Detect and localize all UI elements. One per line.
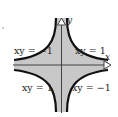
label-top-left: xy = −1 bbox=[14, 45, 53, 56]
hyperbola-region-diagram: y x xy = −1 xy = 1 xy = 1 xy = −1 bbox=[0, 0, 118, 117]
stray-dot bbox=[2, 27, 3, 28]
label-bottom-left: xy = 1 bbox=[22, 82, 53, 93]
label-top-right: xy = 1 bbox=[75, 45, 106, 56]
label-bottom-right: xy = −1 bbox=[72, 82, 111, 93]
y-axis-label: y bbox=[66, 15, 73, 25]
